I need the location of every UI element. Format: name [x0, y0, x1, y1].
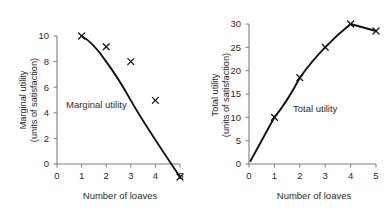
panel-total-utility: 0 5 10 15 20 25 30 0 1 2 3 4 5 [196, 0, 392, 210]
y-axis-title-line1: Total utility [210, 73, 220, 116]
y-tick-label: 2 [44, 133, 49, 144]
x-axis-title: Number of loaves [277, 190, 352, 201]
panel-marginal-utility: 0 2 4 6 8 10 0 1 2 3 4 5 [0, 0, 196, 210]
x-tick-label: 4 [153, 170, 158, 181]
y-tick-label: 8 [44, 56, 49, 67]
x-tick-label: 0 [246, 170, 251, 181]
y-tick-label: 5 [236, 135, 241, 146]
data-point-marker [322, 44, 328, 50]
x-tick-label: 4 [348, 170, 353, 181]
x-tick-label: 0 [54, 170, 59, 181]
y-tick-label: 0 [44, 158, 49, 169]
plot-annotation-label: Total utility [293, 103, 338, 114]
data-point-marker [79, 33, 85, 39]
total-utility-chart: 0 5 10 15 20 25 30 0 1 2 3 4 5 [196, 0, 392, 210]
marginal-utility-chart: 0 2 4 6 8 10 0 1 2 3 4 5 [0, 0, 196, 210]
y-axis-title-line1: Marginal utility [18, 70, 28, 129]
y-tick-label: 20 [230, 65, 241, 76]
data-point-marker [103, 44, 109, 50]
y-tick-label: 0 [236, 158, 241, 169]
x-tick-label: 1 [79, 170, 84, 181]
plot-annotation-label: Marginal utility [66, 99, 127, 110]
y-tick-label: 4 [44, 107, 49, 118]
x-tick-label: 2 [297, 170, 302, 181]
y-tick-label: 6 [44, 82, 49, 93]
x-tick-label: 5 [373, 170, 378, 181]
y-axis-title-line2: (units of satisfaction) [221, 53, 231, 137]
data-point-marker [128, 59, 134, 65]
data-point-marker [152, 97, 158, 103]
y-tick-label: 10 [38, 30, 49, 41]
data-point-marker [271, 114, 277, 120]
y-tick-label: 30 [230, 18, 241, 29]
y-axis-title-line2: (units of satisfaction) [29, 58, 39, 142]
x-axis-title: Number of loaves [83, 190, 158, 201]
x-tick-label: 3 [128, 170, 133, 181]
y-tick-label: 25 [230, 42, 241, 53]
x-tick-label: 3 [323, 170, 328, 181]
data-point-marker [297, 75, 303, 81]
y-tick-label: 10 [230, 112, 241, 123]
total-utility-curve [251, 24, 377, 161]
x-tick-label: 2 [104, 170, 109, 181]
x-tick-label: 1 [272, 170, 277, 181]
y-tick-label: 15 [230, 88, 241, 99]
two-panel-utility-figure: 0 2 4 6 8 10 0 1 2 3 4 5 [0, 0, 392, 210]
